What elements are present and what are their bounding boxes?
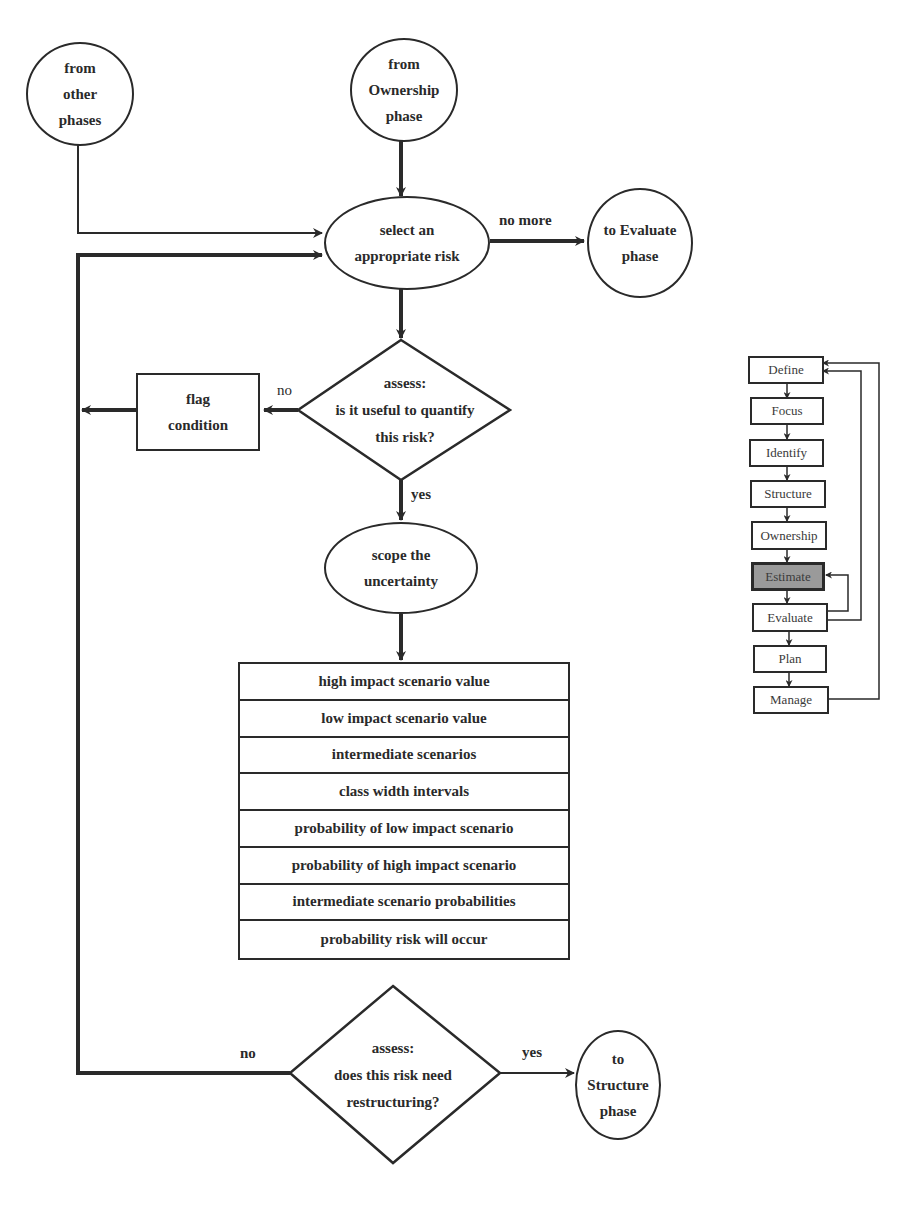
yes-label-quantify: yes — [411, 486, 431, 503]
no-label-quantify: no — [277, 382, 292, 399]
assess-restructure-decision: assess: does this risk need restructurin… — [300, 1035, 486, 1116]
scope-step-row: class width intervals — [240, 774, 568, 811]
no-more-label: no more — [499, 212, 552, 229]
assess-quantify-line1: assess: — [300, 370, 510, 397]
assess-quantify-line2: is it useful to quantify — [300, 397, 510, 424]
scope-step-row: intermediate scenarios — [240, 738, 568, 775]
assess-quantify-line3: this risk? — [300, 424, 510, 451]
scope-step-row: intermediate scenario probabilities — [240, 885, 568, 922]
scope-uncertainty-node: scope the uncertainty — [324, 522, 478, 614]
phase-evaluate: Evaluate — [752, 603, 828, 632]
select-risk-node: select an appropriate risk — [324, 196, 490, 290]
scope-step-row: high impact scenario value — [240, 664, 568, 701]
assess-quantify-decision: assess: is it useful to quantify this ri… — [300, 370, 510, 451]
to-structure-phase-node: to Structure phase — [575, 1030, 661, 1140]
assess-restructure-line2: does this risk need — [300, 1062, 486, 1089]
phase-identify: Identify — [749, 439, 824, 467]
scope-step-row: probability of high impact scenario — [240, 848, 568, 885]
yes-label-restructure: yes — [522, 1044, 542, 1061]
scope-step-row: low impact scenario value — [240, 701, 568, 738]
phase-define: Define — [748, 356, 824, 384]
to-evaluate-phase-node: to Evaluate phase — [587, 188, 693, 298]
from-other-phases-node: from other phases — [26, 42, 134, 146]
phase-focus: Focus — [750, 397, 824, 425]
phase-manage: Manage — [753, 686, 829, 714]
scope-step-row: probability risk will occur — [240, 921, 568, 958]
assess-restructure-line3: restructuring? — [300, 1089, 486, 1116]
flag-condition-box: flag condition — [136, 373, 260, 451]
scope-step-row: probability of low impact scenario — [240, 811, 568, 848]
phase-estimate-active: Estimate — [751, 562, 825, 591]
no-label-restructure: no — [240, 1045, 256, 1062]
scope-steps-table: high impact scenario value low impact sc… — [238, 662, 570, 960]
from-ownership-phase-node: from Ownership phase — [350, 38, 458, 142]
phase-structure: Structure — [750, 480, 826, 508]
phase-plan: Plan — [753, 645, 827, 673]
phase-ownership: Ownership — [751, 521, 827, 550]
assess-restructure-line1: assess: — [300, 1035, 486, 1062]
